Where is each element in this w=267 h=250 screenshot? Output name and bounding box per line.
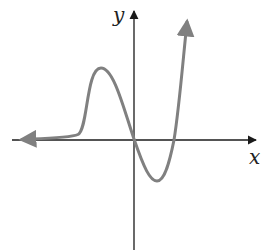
function-graph: y x <box>0 0 267 250</box>
x-axis-label: x <box>249 145 260 169</box>
function-curve <box>22 22 187 181</box>
y-axis-label: y <box>112 3 125 27</box>
